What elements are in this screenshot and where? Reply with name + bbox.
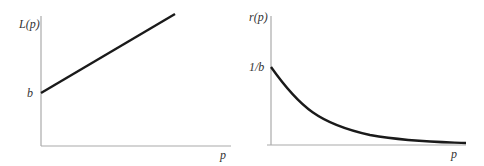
right-chart: r(p) 1/b p: [249, 10, 466, 161]
right-ytick-1-over-b: 1/b: [249, 60, 264, 74]
left-ytick-b: b: [27, 86, 33, 100]
left-y-label: L(p): [18, 17, 40, 31]
right-curve-r: [271, 67, 466, 143]
right-x-label: p: [450, 147, 457, 161]
left-chart: L(p) b p: [18, 14, 231, 162]
left-line-L: [41, 14, 175, 93]
right-y-label: r(p): [249, 10, 268, 24]
left-x-label: p: [219, 148, 226, 162]
charts-canvas: L(p) b p r(p) 1/b p: [0, 0, 484, 166]
